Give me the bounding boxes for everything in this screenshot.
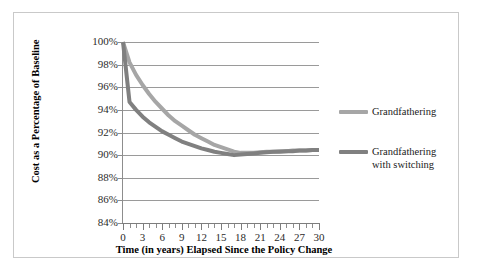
y-axis-tick-label: 90%: [72, 149, 118, 160]
x-axis-major-tick: [299, 224, 300, 230]
x-axis-minor-tick: [293, 224, 294, 228]
x-axis-minor-tick: [208, 224, 209, 228]
x-axis-minor-tick: [175, 224, 176, 228]
y-axis-tick-mark: [118, 178, 122, 179]
x-axis-minor-tick: [312, 224, 313, 228]
y-axis-tick-label: 96%: [72, 81, 118, 92]
series-line: [123, 42, 319, 153]
x-axis-minor-tick: [234, 224, 235, 228]
x-axis-major-tick: [143, 224, 144, 230]
legend-label: Grandfathering with switching: [372, 145, 457, 171]
y-axis-tick-mark: [118, 87, 122, 88]
legend-entry[interactable]: Grandfathering with switching: [339, 145, 457, 171]
x-axis-minor-tick: [214, 224, 215, 228]
series-lines: [123, 42, 319, 223]
chart-frame: Cost as a Percentage of Baseline 84%86%8…: [13, 12, 459, 258]
x-axis-minor-tick: [254, 224, 255, 228]
x-axis-major-tick: [162, 224, 163, 230]
x-axis-major-tick: [319, 224, 320, 230]
x-axis-major-tick: [201, 224, 202, 230]
x-axis-minor-tick: [267, 224, 268, 228]
y-axis-tick-labels: 84%86%88%90%92%94%96%98%100%: [70, 13, 118, 259]
x-axis-major-tick: [123, 224, 124, 230]
y-axis-tick-label: 100%: [72, 36, 118, 47]
y-axis-tick-label: 88%: [72, 172, 118, 183]
x-axis-minor-tick: [273, 224, 274, 228]
y-axis-tick-label: 94%: [72, 104, 118, 115]
y-axis-tick-label: 86%: [72, 194, 118, 205]
legend-swatch-icon: [339, 150, 368, 154]
x-axis-minor-tick: [136, 224, 137, 228]
y-axis-tick-mark: [118, 155, 122, 156]
x-axis-tick-label: 30: [307, 231, 331, 243]
y-axis-tick-mark: [118, 200, 122, 201]
y-axis-tick-mark: [118, 110, 122, 111]
x-axis-minor-tick: [195, 224, 196, 228]
x-axis-minor-tick: [130, 224, 131, 228]
y-axis-tick-mark: [118, 133, 122, 134]
x-axis-minor-tick: [228, 224, 229, 228]
x-axis-major-tick: [280, 224, 281, 230]
x-axis-minor-tick: [286, 224, 287, 228]
x-axis-minor-tick: [149, 224, 150, 228]
legend-label: Grandfathering: [372, 105, 457, 118]
x-axis-major-tick: [221, 224, 222, 230]
x-axis-major-tick: [241, 224, 242, 230]
plot-area: [123, 42, 319, 223]
x-axis-minor-tick: [188, 224, 189, 228]
x-axis-title: Time (in years) Elapsed Since the Policy…: [104, 244, 344, 255]
legend-swatch-icon: [339, 110, 368, 114]
x-axis-minor-tick: [306, 224, 307, 228]
y-axis-tick-mark: [118, 42, 122, 43]
x-axis-major-tick: [260, 224, 261, 230]
x-axis-minor-tick: [156, 224, 157, 228]
x-axis-minor-tick: [247, 224, 248, 228]
x-axis-major-tick: [182, 224, 183, 230]
x-axis-minor-tick: [169, 224, 170, 228]
y-axis-tick-label: 84%: [72, 217, 118, 228]
y-axis-tick-label: 98%: [72, 59, 118, 70]
y-axis-tick-label: 92%: [72, 127, 118, 138]
y-axis-tick-mark: [118, 223, 122, 224]
y-axis-tick-mark: [118, 65, 122, 66]
y-axis-title: Cost as a Percentage of Baseline: [30, 31, 43, 191]
legend-entry[interactable]: Grandfathering: [339, 105, 457, 119]
chart-legend: GrandfatheringGrandfathering with switch…: [339, 105, 457, 197]
